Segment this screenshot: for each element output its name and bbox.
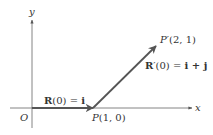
origin-label: O (20, 112, 28, 123)
x-axis-label: x (195, 102, 201, 113)
vector-r-prime0 (93, 46, 156, 108)
vector-r0-value: i (81, 95, 85, 106)
vector-r-prime0-args: ′(0) = (153, 60, 184, 71)
vector-r0-args: (0) = (52, 95, 81, 106)
vector-diagram: y x O R(0) = i P(1, 0) R′(0) = i + j P′(… (0, 0, 213, 135)
vector-r-prime0-value: i + j (184, 60, 207, 71)
vector-r0-label: R(0) = i (44, 95, 85, 106)
point-p-prime-label: P′(2, 1) (159, 34, 196, 45)
point-p-label: P(1, 0) (91, 112, 126, 123)
y-axis-label: y (28, 6, 35, 17)
vector-r-prime0-label: R′(0) = i + j (145, 60, 207, 71)
